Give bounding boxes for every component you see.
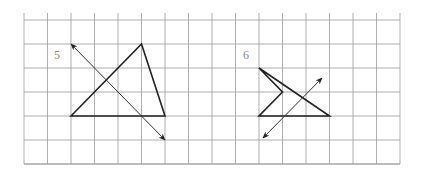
worksheet-grid: 5 6 (0, 0, 422, 172)
figure-6-symmetry-axis-arrow (263, 78, 322, 138)
grid-diagram (0, 0, 422, 172)
exercise-number-6: 6 (243, 49, 249, 61)
grid-lines (24, 13, 400, 164)
exercise-number-5: 5 (54, 49, 60, 61)
